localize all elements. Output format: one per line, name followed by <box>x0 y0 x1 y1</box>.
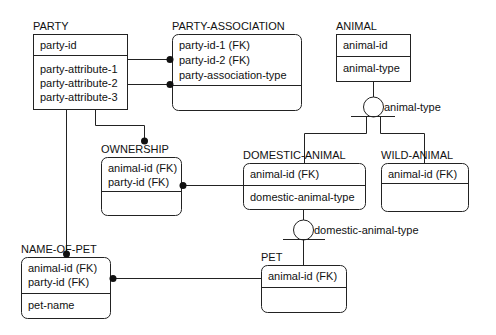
pet-key: animal-id (FK) <box>268 269 337 283</box>
relationship-dot <box>167 81 174 88</box>
party-association-key: party-association-type <box>179 68 287 82</box>
party-association-key: party-id-2 (FK) <box>179 53 250 67</box>
domestic-animal-key: animal-id (FK) <box>250 167 319 181</box>
animal-attr: animal-type <box>343 61 400 75</box>
animal-key: animal-id <box>343 38 388 52</box>
party-key: party-id <box>40 38 77 52</box>
name-of-pet-title: NAME-OF-PET <box>21 243 97 255</box>
wild-animal-key: animal-id (FK) <box>388 167 457 181</box>
animal-title: ANIMAL <box>336 20 377 32</box>
party-association-title: PARTY-ASSOCIATION <box>172 20 285 32</box>
wild-animal-title: WILD-ANIMAL <box>381 149 453 161</box>
name-of-pet-key: party-id (FK) <box>28 275 89 289</box>
party-attr: party-attribute-1 <box>40 62 118 76</box>
domestic-animal-attr: domestic-animal-type <box>250 190 355 204</box>
ownership-title: OWNERSHIP <box>101 143 169 155</box>
animal-type-discriminator: animal-type <box>384 101 441 113</box>
party-title: PARTY <box>33 20 69 32</box>
party-association-key: party-id-1 (FK) <box>179 38 250 52</box>
relationship-dot <box>110 275 117 282</box>
pet-title: PET <box>261 251 282 263</box>
relationship-dot <box>180 182 187 189</box>
ownership-key: animal-id (FK) <box>108 161 177 175</box>
domestic-animal-type-discriminator: domestic-animal-type <box>314 224 419 236</box>
domestic-animal-title: DOMESTIC-ANIMAL <box>243 149 346 161</box>
party-attr: party-attribute-3 <box>40 90 118 104</box>
relationship-dot <box>167 56 174 63</box>
party-attr: party-attribute-2 <box>40 76 118 90</box>
name-of-pet-key: animal-id (FK) <box>28 261 97 275</box>
name-of-pet-attr: pet-name <box>28 298 74 312</box>
ownership-key: party-id (FK) <box>108 175 169 189</box>
